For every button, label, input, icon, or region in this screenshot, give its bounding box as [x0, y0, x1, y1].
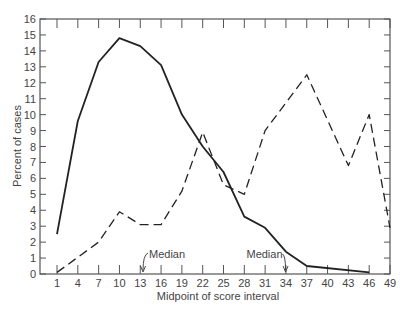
x-tick-label: 40: [321, 277, 333, 289]
x-axis: 1471013161922252831343740434649: [54, 19, 396, 289]
y-tick-label: 8: [30, 141, 36, 153]
x-tick-label: 7: [96, 277, 102, 289]
y-tick-label: 1: [30, 252, 36, 264]
x-tick-label: 25: [217, 277, 229, 289]
y-tick-label: 2: [30, 236, 36, 248]
median-label: Median: [246, 248, 282, 260]
y-tick-label: 4: [30, 204, 36, 216]
plot-frame: [40, 19, 390, 274]
x-tick-label: 28: [238, 277, 250, 289]
x-tick-label: 43: [342, 277, 354, 289]
x-tick-label: 31: [259, 277, 271, 289]
x-tick-label: 34: [280, 277, 292, 289]
y-tick-label: 11: [25, 93, 36, 105]
y-tick-label: 6: [30, 172, 36, 184]
y-tick-label: 7: [30, 156, 36, 168]
y-tick-label: 9: [30, 125, 36, 137]
y-tick-label: 3: [30, 220, 36, 232]
y-tick-label: 0: [30, 268, 36, 280]
annotations: MedianMedian: [141, 248, 289, 272]
x-tick-label: 46: [363, 277, 375, 289]
y-tick-label: 15: [24, 29, 36, 41]
y-tick-label: 13: [24, 61, 36, 73]
x-tick-label: 10: [113, 277, 125, 289]
x-axis-title: Midpoint of score interval: [157, 290, 279, 302]
y-tick-label: 10: [24, 109, 36, 121]
y-tick-label: 14: [24, 45, 36, 57]
y-axis-title: Percent of cases: [11, 105, 23, 187]
y-tick-label: 12: [24, 77, 36, 89]
x-tick-label: 4: [75, 277, 81, 289]
y-axis: 012345678910111213141516: [24, 13, 390, 280]
series-group: [57, 38, 390, 272]
x-tick-label: 16: [155, 277, 167, 289]
line-chart: 012345678910111213141516 147101316192225…: [0, 0, 407, 313]
solid-line-series: [57, 38, 369, 272]
x-tick-label: 19: [176, 277, 188, 289]
y-tick-label: 16: [24, 13, 36, 25]
x-tick-label: 1: [54, 277, 60, 289]
x-tick-label: 22: [197, 277, 209, 289]
x-tick-label: 13: [134, 277, 146, 289]
x-tick-label: 49: [384, 277, 396, 289]
median-label: Median: [149, 248, 185, 260]
x-tick-label: 37: [301, 277, 313, 289]
median-arrow-icon: [143, 253, 148, 270]
y-tick-label: 5: [30, 188, 36, 200]
